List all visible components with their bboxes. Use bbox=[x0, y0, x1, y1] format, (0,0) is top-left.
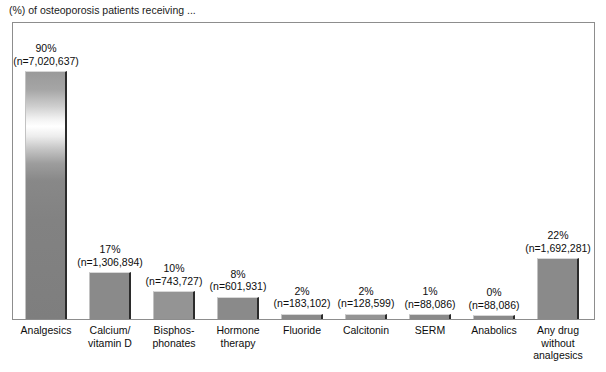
bar-percent-analgesics: 90% bbox=[13, 42, 79, 55]
bar-group-analgesics: 90%(n=7,020,637) bbox=[25, 22, 67, 320]
bar-percent-anabolics: 0% bbox=[468, 286, 519, 299]
bar-calcium-vitamin-d[interactable] bbox=[89, 272, 131, 319]
bar-serm[interactable] bbox=[409, 314, 451, 319]
bar-group-calcium-vitamin-d: 17%(n=1,306,894) bbox=[89, 22, 131, 320]
bar-fluoride[interactable] bbox=[281, 314, 323, 320]
category-label-analgesics: Analgesics bbox=[14, 324, 78, 337]
category-label-calcium-vitamin-d: Calcium/vitamin D bbox=[78, 324, 142, 349]
bar-value-label-calcium-vitamin-d: 17%(n=1,306,894) bbox=[77, 243, 143, 268]
bar-percent-hormone-therapy: 8% bbox=[210, 268, 267, 281]
bar-count-bisphosphonates: (n=743,727) bbox=[146, 275, 203, 288]
bar-value-label-any-drug-without-analgesics: 22%(n=1,692,281) bbox=[525, 229, 591, 254]
category-label-line: Calcitonin bbox=[334, 324, 398, 337]
bar-percent-any-drug-without-analgesics: 22% bbox=[525, 229, 591, 242]
bar-count-hormone-therapy: (n=601,931) bbox=[210, 280, 267, 293]
bar-group-hormone-therapy: 8%(n=601,931) bbox=[217, 22, 259, 320]
bar-percent-fluoride: 2% bbox=[274, 285, 331, 298]
category-label-line: Calcium/ bbox=[78, 324, 142, 337]
category-label-line: Anabolics bbox=[462, 324, 526, 337]
category-label-line: therapy bbox=[206, 337, 270, 350]
bar-analgesics[interactable] bbox=[25, 71, 67, 319]
category-label-line: Hormone bbox=[206, 324, 270, 337]
bar-group-calcitonin: 2%(n=128,599) bbox=[345, 22, 387, 320]
bar-percent-bisphosphonates: 10% bbox=[146, 262, 203, 275]
category-label-line: SERM bbox=[398, 324, 462, 337]
bar-count-anabolics: (n=88,086) bbox=[468, 299, 519, 312]
bar-calcitonin[interactable] bbox=[345, 314, 387, 320]
category-label-fluoride: Fluoride bbox=[270, 324, 334, 337]
category-label-hormone-therapy: Hormonetherapy bbox=[206, 324, 270, 349]
bar-group-bisphosphonates: 10%(n=743,727) bbox=[153, 22, 195, 320]
bar-count-any-drug-without-analgesics: (n=1,692,281) bbox=[525, 242, 591, 255]
bar-count-fluoride: (n=183,102) bbox=[274, 297, 331, 310]
bar-percent-calcium-vitamin-d: 17% bbox=[77, 243, 143, 256]
bar-value-label-anabolics: 0%(n=88,086) bbox=[468, 286, 519, 311]
bar-bisphosphonates[interactable] bbox=[153, 291, 195, 319]
category-label-line: Any drug bbox=[526, 324, 590, 337]
bar-hormone-therapy[interactable] bbox=[217, 297, 259, 319]
bar-group-fluoride: 2%(n=183,102) bbox=[281, 22, 323, 320]
category-label-line: Fluoride bbox=[270, 324, 334, 337]
bar-count-serm: (n=88,086) bbox=[404, 298, 455, 311]
category-label-line: vitamin D bbox=[78, 337, 142, 350]
bar-count-analgesics: (n=7,020,637) bbox=[13, 55, 79, 68]
bar-any-drug-without-analgesics[interactable] bbox=[537, 258, 579, 319]
bar-value-label-hormone-therapy: 8%(n=601,931) bbox=[210, 268, 267, 293]
category-axis: AnalgesicsCalcium/vitamin DBisphos-phona… bbox=[12, 322, 595, 372]
category-label-line: phonates bbox=[142, 337, 206, 350]
category-label-bisphosphonates: Bisphos-phonates bbox=[142, 324, 206, 349]
category-label-line: analgesics bbox=[526, 349, 590, 362]
category-label-line: Analgesics bbox=[14, 324, 78, 337]
bar-value-label-bisphosphonates: 10%(n=743,727) bbox=[146, 262, 203, 287]
category-label-calcitonin: Calcitonin bbox=[334, 324, 398, 337]
category-label-line: without bbox=[526, 337, 590, 350]
bar-percent-serm: 1% bbox=[404, 285, 455, 298]
category-label-any-drug-without-analgesics: Any drugwithoutanalgesics bbox=[526, 324, 590, 362]
bar-group-serm: 1%(n=88,086) bbox=[409, 22, 451, 320]
category-label-serm: SERM bbox=[398, 324, 462, 337]
bar-percent-calcitonin: 2% bbox=[338, 285, 395, 298]
category-label-anabolics: Anabolics bbox=[462, 324, 526, 337]
bar-value-label-analgesics: 90%(n=7,020,637) bbox=[13, 42, 79, 67]
bar-group-any-drug-without-analgesics: 22%(n=1,692,281) bbox=[537, 22, 579, 320]
chart-title: (%) of osteoporosis patients receiving .… bbox=[9, 4, 196, 17]
bar-count-calcium-vitamin-d: (n=1,306,894) bbox=[77, 256, 143, 269]
plot-area: 90%(n=7,020,637)17%(n=1,306,894)10%(n=74… bbox=[12, 22, 595, 320]
bar-value-label-fluoride: 2%(n=183,102) bbox=[274, 285, 331, 310]
bar-count-calcitonin: (n=128,599) bbox=[338, 297, 395, 310]
bar-anabolics[interactable] bbox=[473, 315, 515, 319]
bar-value-label-calcitonin: 2%(n=128,599) bbox=[338, 285, 395, 310]
category-label-line: Bisphos- bbox=[142, 324, 206, 337]
bar-group-anabolics: 0%(n=88,086) bbox=[473, 22, 515, 320]
bar-value-label-serm: 1%(n=88,086) bbox=[404, 285, 455, 310]
